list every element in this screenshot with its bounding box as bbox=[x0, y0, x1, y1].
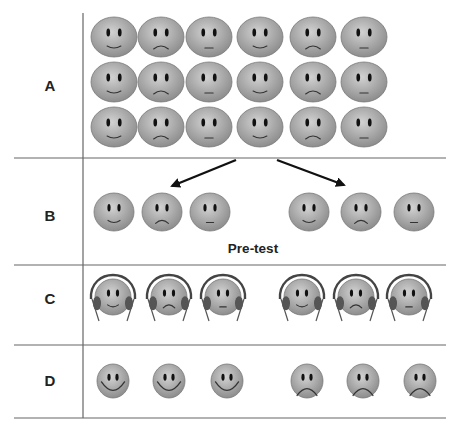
pre-test-caption: Pre-test bbox=[228, 241, 278, 256]
face-d-2 bbox=[211, 364, 243, 398]
face-a-1-1 bbox=[138, 62, 184, 102]
face-c-1-headphones bbox=[147, 275, 191, 321]
row-label-b: B bbox=[45, 207, 56, 224]
earcup-left-icon bbox=[149, 296, 157, 310]
face-a-1-5 bbox=[341, 62, 387, 102]
face-a-0-3 bbox=[237, 17, 283, 57]
face-b-5 bbox=[394, 193, 434, 231]
diagram-canvas bbox=[0, 0, 465, 436]
face-b-1 bbox=[142, 193, 182, 231]
face-a-2-3 bbox=[237, 107, 283, 147]
face-a-1-4 bbox=[290, 62, 336, 102]
face-a-1-0 bbox=[91, 62, 137, 102]
earcup-left-icon bbox=[282, 296, 290, 310]
earcup-left-icon bbox=[93, 296, 101, 310]
face-a-1-3 bbox=[237, 62, 283, 102]
face-b-0 bbox=[94, 193, 134, 231]
row-label-a: A bbox=[45, 77, 56, 94]
face-a-0-5 bbox=[341, 17, 387, 57]
face-a-2-4 bbox=[290, 107, 336, 147]
arrow-left-icon bbox=[172, 160, 236, 186]
faces-layer bbox=[91, 17, 436, 398]
face-c-3-headphones bbox=[280, 275, 324, 321]
split-arrows bbox=[172, 160, 344, 186]
face-b-2 bbox=[190, 193, 230, 231]
face-a-0-2 bbox=[186, 17, 232, 57]
face-a-0-4 bbox=[290, 17, 336, 57]
experiment-diagram: A B C D Pre-test bbox=[0, 0, 465, 436]
earcup-left-icon bbox=[203, 296, 211, 310]
face-a-2-1 bbox=[138, 107, 184, 147]
earcup-right-icon bbox=[314, 296, 322, 310]
face-d-0 bbox=[97, 364, 129, 398]
face-b-4 bbox=[341, 193, 381, 231]
earcup-right-icon bbox=[235, 296, 243, 310]
face-d-3 bbox=[291, 364, 323, 398]
face-c-2-headphones bbox=[201, 275, 245, 321]
earcup-left-icon bbox=[336, 296, 344, 310]
face-d-4 bbox=[347, 364, 379, 398]
earcup-right-icon bbox=[125, 296, 133, 310]
arrow-right-icon bbox=[277, 160, 344, 185]
face-b-3 bbox=[289, 193, 329, 231]
face-c-0-headphones bbox=[91, 275, 135, 321]
face-c-4-headphones bbox=[334, 275, 378, 321]
face-d-5 bbox=[404, 364, 436, 398]
earcup-right-icon bbox=[368, 296, 376, 310]
earcup-right-icon bbox=[181, 296, 189, 310]
earcup-left-icon bbox=[389, 296, 397, 310]
face-a-2-0 bbox=[91, 107, 137, 147]
face-c-5-headphones bbox=[387, 275, 431, 321]
face-a-0-0 bbox=[91, 17, 137, 57]
face-a-1-2 bbox=[186, 62, 232, 102]
face-a-0-1 bbox=[138, 17, 184, 57]
row-label-c: C bbox=[45, 290, 56, 307]
face-a-2-2 bbox=[186, 107, 232, 147]
face-d-1 bbox=[153, 364, 185, 398]
row-label-d: D bbox=[45, 372, 56, 389]
face-a-2-5 bbox=[341, 107, 387, 147]
earcup-right-icon bbox=[421, 296, 429, 310]
